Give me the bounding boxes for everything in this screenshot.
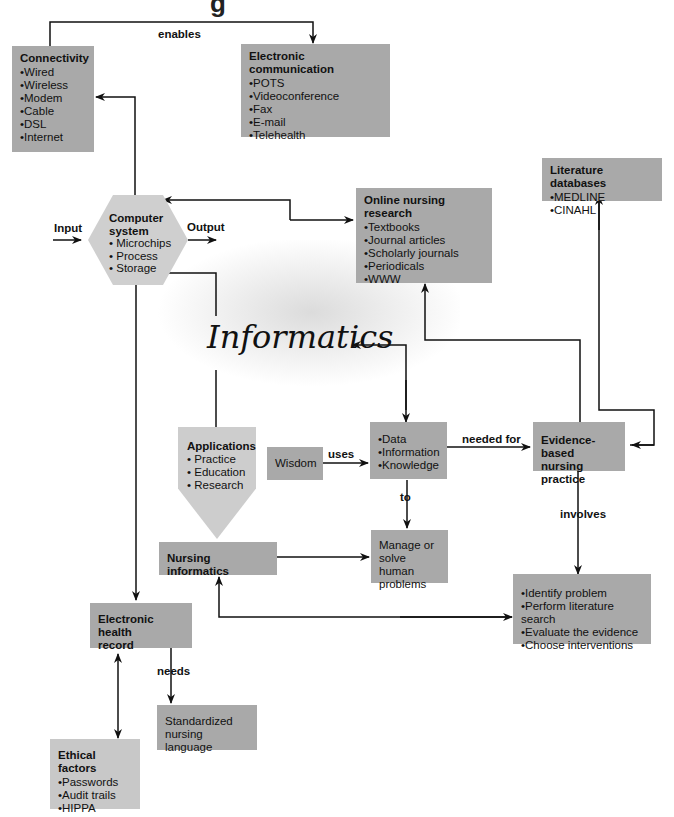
manage-line1: Manage or <box>379 539 440 552</box>
evidence-based-practice-box: Evidence-based nursing practice <box>533 422 625 471</box>
connectivity-title: Connectivity <box>20 52 86 65</box>
list-item: Information <box>378 446 439 459</box>
wisdom-box: Wisdom <box>267 447 323 480</box>
list-item: Evaluate the evidence <box>521 626 643 639</box>
connectivity-box: Connectivity Wired Wireless Modem Cable … <box>12 46 94 152</box>
list-item: Perform literature search <box>521 600 643 626</box>
list-item: Periodicals <box>364 260 484 273</box>
standardized-line1: Standardized <box>165 715 249 728</box>
informatics-center-label: Informatics <box>207 318 394 356</box>
list-item: MEDLINE <box>550 191 654 204</box>
ehr-line2: record <box>98 639 184 652</box>
computer-system-text: Computer system • Microchips • Process •… <box>109 212 171 275</box>
manage-problems-box: Manage or solve human problems <box>371 530 448 583</box>
list-item: HIPPA <box>58 802 132 815</box>
online-nursing-research-box: Online nursing research Textbooks Journa… <box>356 188 492 283</box>
list-item: POTS <box>249 77 382 90</box>
standardized-line2: nursing language <box>165 728 249 754</box>
edge-label-involves: involves <box>560 508 606 520</box>
list-item: Cable <box>20 105 86 118</box>
list-item: CINAHL <box>550 204 654 217</box>
ethical-factors-title: Ethical factors <box>58 749 132 775</box>
standardized-language-box: Standardized nursing language <box>157 705 257 750</box>
edge-label-uses: uses <box>328 448 354 460</box>
edge-label-needed-for: needed for <box>462 433 521 445</box>
nursing-informatics-box: Nursing informatics <box>159 542 277 575</box>
ehr-line1: Electronic health <box>98 613 184 639</box>
manage-line3: problems <box>379 578 440 591</box>
data-information-knowledge-box: Data Information Knowledge <box>370 422 447 479</box>
list-item: • Education <box>187 466 256 479</box>
electronic-communication-title: Electronic communication <box>249 50 382 76</box>
list-item: WWW <box>364 273 484 286</box>
list-item: Wired <box>20 66 86 79</box>
manage-line2: solve human <box>379 552 440 578</box>
list-item: Modem <box>20 92 86 105</box>
list-item: Fax <box>249 103 382 116</box>
nursing-informatics-label: Nursing informatics <box>167 552 229 577</box>
edge-label-output: Output <box>187 221 225 233</box>
list-item: • Research <box>187 479 256 492</box>
list-item: • Process <box>109 250 171 263</box>
list-item: Choose interventions <box>521 639 643 652</box>
computer-system-title: Computer <box>109 212 171 225</box>
online-research-title: Online nursing research <box>364 194 484 220</box>
list-item: Telehealth <box>249 129 382 142</box>
list-item: Journal articles <box>364 234 484 247</box>
applications-title: Applications <box>187 440 256 453</box>
electronic-communication-box: Electronic communication POTS Videoconfe… <box>241 44 390 137</box>
list-item: Internet <box>20 131 86 144</box>
list-item: Data <box>378 433 439 446</box>
list-item: Identify problem <box>521 587 643 600</box>
list-item: Audit trails <box>58 789 132 802</box>
list-item: Videoconference <box>249 90 382 103</box>
edge-label-input: Input <box>54 222 82 234</box>
list-item: Scholarly journals <box>364 247 484 260</box>
list-item: Knowledge <box>378 459 439 472</box>
list-item: DSL <box>20 118 86 131</box>
list-item: • Practice <box>187 453 256 466</box>
literature-databases-box: Literature databases MEDLINE CINAHL <box>542 158 662 201</box>
wisdom-label: Wisdom <box>275 457 317 469</box>
list-item: • Microchips <box>109 237 171 250</box>
list-item: Wireless <box>20 79 86 92</box>
edge-label-enables: enables <box>158 28 201 40</box>
edge-label-needs: needs <box>157 665 190 677</box>
computer-system-title-2: system <box>109 225 171 238</box>
literature-databases-title: Literature databases <box>550 164 654 190</box>
ebp-line1: Evidence-based <box>541 434 617 460</box>
list-item: E-mail <box>249 116 382 129</box>
list-item: Textbooks <box>364 221 484 234</box>
applications-text: Applications • Practice • Education • Re… <box>187 440 256 492</box>
list-item: • Storage <box>109 262 171 275</box>
ebp-steps-box: Identify problem Perform literature sear… <box>513 574 651 644</box>
electronic-health-record-box: Electronic health record <box>90 603 192 648</box>
ethical-factors-box: Ethical factors Passwords Audit trails H… <box>50 739 140 809</box>
ebp-line2: nursing practice <box>541 460 617 486</box>
edge-label-to: to <box>400 491 411 503</box>
list-item: Passwords <box>58 776 132 789</box>
